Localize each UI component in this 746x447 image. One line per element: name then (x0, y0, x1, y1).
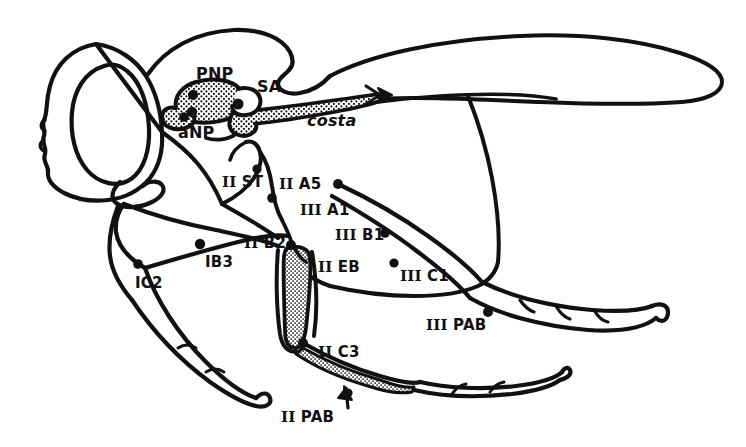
attachment-point (267, 193, 277, 203)
label-ib3: IB3 (205, 255, 233, 270)
label-ii_eb: II EB (318, 260, 360, 275)
label-iii_a1: III A1 (300, 203, 350, 218)
roman-numeral: III (426, 316, 448, 334)
label-text: EB (332, 258, 360, 276)
attachment-point (298, 338, 308, 348)
attachment-point (233, 99, 244, 110)
attachment-point (188, 90, 198, 100)
label-anp: aNP (178, 125, 215, 141)
label-text: C1 (422, 267, 449, 285)
label-text: C3 (332, 343, 359, 361)
label-ii_c3: II C3 (318, 345, 360, 360)
roman-numeral: II (318, 343, 332, 361)
thorax-dorsum (148, 30, 330, 94)
roman-numeral: III (400, 267, 422, 285)
label-pnp: PNP (196, 66, 233, 82)
label-text: PAB (295, 408, 334, 426)
label-sa: SA (257, 79, 281, 95)
attachment-point (343, 388, 352, 397)
label-ii_pab: II PAB (281, 410, 334, 425)
attachment-point (333, 179, 343, 189)
label-iii_b1: III B1 (335, 228, 384, 243)
attachment-point (389, 258, 398, 267)
label-text: A5 (293, 175, 321, 193)
attachment-point (133, 259, 143, 269)
label-iii_pab: III PAB (426, 318, 486, 333)
label-text: PAB (448, 316, 487, 334)
roman-numeral: III (335, 226, 357, 244)
attachment-point (286, 240, 296, 250)
label-ic2: IC2 (135, 276, 163, 291)
roman-numeral: II (318, 258, 332, 276)
label-text: A1 (322, 201, 350, 219)
roman-numeral: II (244, 234, 258, 252)
attachment-point (195, 239, 205, 249)
label-iii_c1: III C1 (400, 269, 449, 284)
insect-anatomy-figure: PNPSAaNPcostaII STII A5III A1III B1II B2… (0, 0, 746, 447)
label-text: ST (236, 173, 263, 191)
label-text: B1 (357, 226, 385, 244)
label-costa: costa (307, 113, 356, 129)
roman-numeral: II (281, 408, 295, 426)
attachment-point (179, 112, 189, 122)
label-ii_a5: II A5 (279, 177, 321, 192)
roman-numeral: II (222, 173, 236, 191)
label-ii_b2: II B2 (244, 236, 286, 251)
label-ii_st: II ST (222, 175, 263, 190)
roman-numeral: II (279, 175, 293, 193)
anatomy-line-drawing (0, 0, 746, 447)
compound-eye (72, 65, 150, 184)
label-text: B2 (258, 234, 286, 252)
roman-numeral: III (300, 201, 322, 219)
